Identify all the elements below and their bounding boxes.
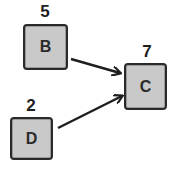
node-d: D: [10, 117, 53, 160]
node-b-value: 5: [30, 2, 60, 22]
node-c: C: [124, 63, 167, 110]
diagram-canvas: 5 B 7 C 2 D: [0, 0, 177, 174]
edge-d-to-c-arrow: [58, 96, 122, 128]
node-b-label: B: [40, 38, 52, 56]
node-c-value: 7: [132, 42, 162, 62]
node-d-label: D: [26, 130, 38, 148]
node-c-label: C: [140, 78, 152, 96]
edge-b-to-c-arrow: [71, 59, 120, 73]
node-b: B: [23, 24, 68, 70]
node-d-value: 2: [16, 96, 46, 116]
